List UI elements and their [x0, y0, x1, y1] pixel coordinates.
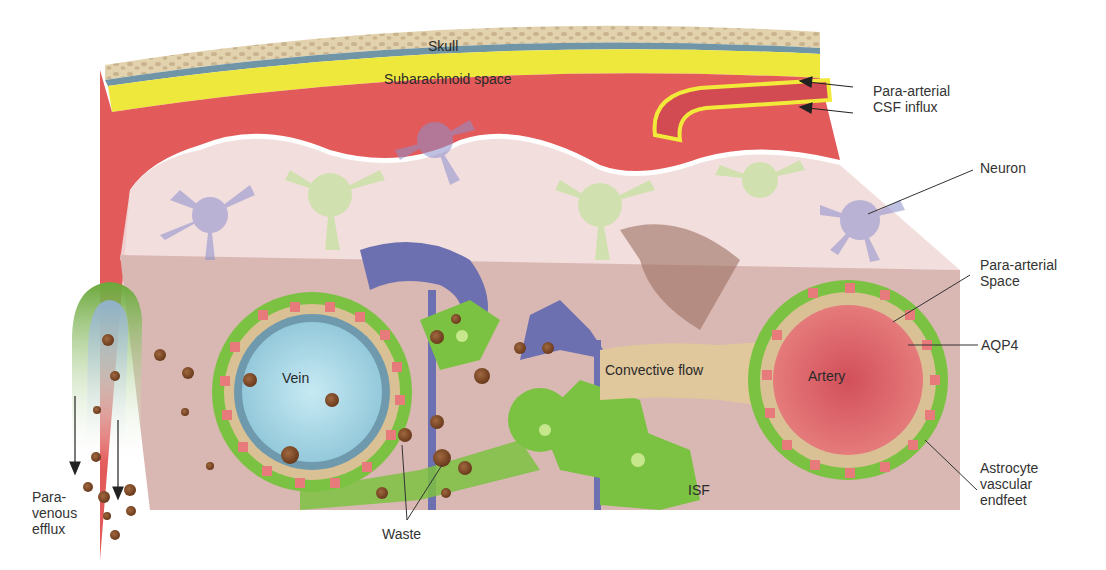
vein-group — [212, 292, 412, 492]
paraarterial-space-label: Para-arterial Space — [980, 257, 1057, 289]
glymphatic-diagram: Skull Subarachnoid space Vein Artery Con… — [0, 0, 1106, 570]
paraarterial-influx-label: Para-arterial CSF influx — [873, 83, 950, 115]
convective-flow-label: Convective flow — [605, 362, 703, 378]
paravenous-vessel — [72, 282, 142, 470]
artery-label: Artery — [808, 368, 845, 384]
skull-label: Skull — [428, 38, 458, 54]
paravenous-efflux-label: Para- venous efflux — [32, 489, 77, 537]
vein-label: Vein — [282, 370, 309, 386]
isf-label: ISF — [688, 482, 710, 498]
neuron-label: Neuron — [980, 160, 1026, 176]
waste-label: Waste — [382, 526, 421, 542]
subarachnoid-label: Subarachnoid space — [384, 71, 512, 87]
astrocyte-endfeet-label: Astrocyte vascular endfeet — [980, 460, 1038, 508]
aqp4-label: AQP4 — [981, 337, 1018, 353]
